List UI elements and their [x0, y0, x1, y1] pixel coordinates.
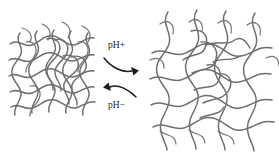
- swollen-network: [150, 10, 279, 151]
- forward-arrow: [104, 58, 139, 76]
- transition-arrows: pH+ pH−: [103, 40, 139, 110]
- collapsed-horizontal-chains: [9, 36, 95, 109]
- ph-plus-label: pH+: [108, 40, 125, 50]
- collapsed-network: [9, 22, 95, 116]
- diagram-svg: pH+ pH−: [0, 0, 279, 154]
- figure-canvas: pH+ pH−: [0, 0, 279, 154]
- ph-minus-label: pH−: [108, 100, 125, 110]
- reverse-arrow: [103, 83, 136, 98]
